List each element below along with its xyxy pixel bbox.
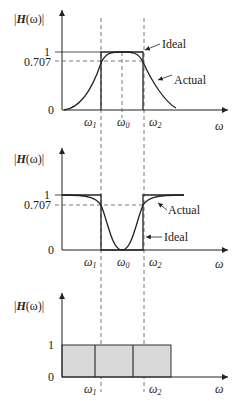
ylabel: |H(ω)| — [14, 12, 44, 26]
label-ideal: Ideal — [164, 230, 189, 244]
ytick-0707: 0.707 — [24, 55, 51, 69]
xtick-w2: ω2 — [149, 255, 161, 270]
xlabel: ω — [215, 382, 223, 396]
actual-pointer — [158, 75, 172, 80]
label-actual: Actual — [174, 73, 207, 87]
ytick-0707: 0.707 — [24, 198, 51, 212]
ytick-0: 0 — [48, 103, 54, 117]
label-actual: Actual — [168, 203, 201, 217]
filter-response-diagram: |H(ω)| 1 0.707 0 ω1 ω0 ω2 ω Ideal Actual… — [0, 0, 235, 401]
ytick-1: 1 — [48, 338, 54, 352]
xtick-w1: ω1 — [84, 115, 96, 130]
ytick-0: 0 — [48, 243, 54, 257]
ylabel: |H(ω)| — [14, 152, 44, 166]
panel-bandstop: |H(ω)| 1 0.707 0 ω1 ω0 ω2 ω Actual Ideal — [14, 148, 228, 271]
actual-pointer — [158, 203, 167, 210]
ytick-0: 0 — [48, 370, 54, 384]
xtick-w2: ω2 — [149, 115, 161, 130]
ideal-pointer — [145, 44, 160, 50]
xlabel: ω — [215, 119, 223, 133]
xtick-w1: ω1 — [84, 255, 96, 270]
passband-area — [62, 345, 171, 377]
xtick-w0: ω0 — [117, 115, 129, 130]
xtick-w2: ω2 — [149, 382, 161, 397]
panel-allpass: |H(ω)| 1 0 ω1 ω2 ω — [14, 293, 228, 397]
label-ideal: Ideal — [162, 37, 187, 51]
xtick-w0: ω0 — [117, 255, 129, 270]
ylabel: |H(ω)| — [14, 299, 44, 313]
xlabel: ω — [215, 257, 223, 271]
xtick-w1: ω1 — [84, 382, 96, 397]
panel-bandpass: |H(ω)| 1 0.707 0 ω1 ω0 ω2 ω Ideal Actual — [14, 10, 228, 133]
